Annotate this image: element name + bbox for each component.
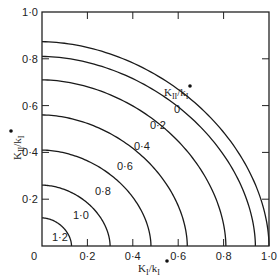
x-axis-title: KI/kI	[138, 259, 169, 277]
x-axis-title-text: KI/kI	[138, 262, 160, 277]
origin-label: 0	[31, 250, 37, 262]
x-tick-label: 0·8	[216, 250, 232, 262]
y-tick-label: 1·0	[22, 6, 38, 18]
star-marker-icon	[9, 129, 13, 133]
x-tick-label: 0·6	[170, 250, 186, 262]
y-tick-label: 0·6	[22, 100, 38, 112]
curve-label-0-4: 0·4	[134, 140, 150, 152]
curve-label-1-2: 1·2	[52, 231, 68, 243]
curve-label-1-0: 1·0	[73, 209, 89, 221]
star-marker-icon	[165, 259, 169, 263]
legend-title: KII/kI	[164, 84, 192, 101]
curve-label-0-2: 0·2	[150, 119, 166, 131]
curve-label-0-6: 0·6	[117, 160, 133, 172]
interaction-chart: 00·20·40·60·81·01·2 0·20·20·40·40·60·60·…	[0, 0, 280, 277]
x-tick-label: 0·2	[79, 250, 95, 262]
tick-labels: 0·20·20·40·40·60·60·80·81·01·00	[22, 6, 277, 262]
curve-label-0: 0	[174, 103, 180, 115]
curve-labels: 00·20·40·60·81·01·2	[52, 103, 180, 243]
x-tick-label: 0·4	[125, 250, 141, 262]
star-marker-icon	[188, 84, 192, 88]
y-tick-label: 0·8	[22, 53, 38, 65]
contour-curve-0-6	[42, 115, 187, 246]
curve-label-0-8: 0·8	[95, 185, 111, 197]
x-tick-label: 1·0	[261, 250, 277, 262]
contour-curve-0-4	[42, 80, 226, 246]
y-tick-label: 0·2	[22, 193, 38, 205]
